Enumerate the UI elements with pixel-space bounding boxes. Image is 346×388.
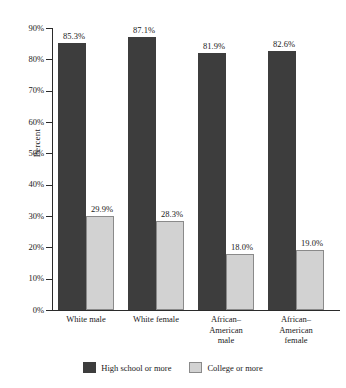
y-axis-tick-label: 30% <box>0 212 44 221</box>
chart-legend: High school or moreCollege or more <box>0 362 346 373</box>
x-axis-label-line: White female <box>116 314 196 325</box>
x-axis-label-line: American <box>186 325 266 336</box>
bar-value-label: 29.9% <box>85 205 119 214</box>
bar <box>156 221 184 310</box>
bar <box>296 250 324 310</box>
bar <box>58 43 86 310</box>
x-axis-label-line: African– <box>186 314 266 325</box>
y-axis-tick-label: 40% <box>0 180 44 189</box>
y-axis-tick <box>46 310 52 311</box>
bar <box>86 216 114 310</box>
x-axis-category-label: African–Americanmale <box>186 314 266 346</box>
bar-value-label: 87.1% <box>127 26 161 35</box>
x-axis-category-label: White male <box>46 314 126 325</box>
y-axis-tick-label: 0% <box>0 306 44 315</box>
plot-area: 85.3%29.9%87.1%28.3%81.9%18.0%82.6%19.0% <box>52 28 340 310</box>
bar <box>268 51 296 310</box>
bar <box>226 254 254 310</box>
y-axis-tick-label: 20% <box>0 243 44 252</box>
bar-value-label: 81.9% <box>197 42 231 51</box>
bar <box>198 53 226 310</box>
y-axis-tick-label: 80% <box>0 55 44 64</box>
x-axis-label-line: American <box>256 325 336 336</box>
x-axis-category-label: African–Americanfemale <box>256 314 336 346</box>
bar-value-label: 19.0% <box>295 239 329 248</box>
y-axis-tick-label: 10% <box>0 274 44 283</box>
bar-value-label: 82.6% <box>267 40 301 49</box>
x-axis-label-line: White male <box>46 314 126 325</box>
x-axis-category-label: White female <box>116 314 196 325</box>
legend-item: College or more <box>189 362 262 373</box>
y-axis-tick-label: 70% <box>0 86 44 95</box>
y-axis-tick-label: 90% <box>0 24 44 33</box>
legend-label: College or more <box>207 363 262 373</box>
legend-label: High school or more <box>101 363 171 373</box>
bar-chart: Percent 90%80%70%60%50%40%30%20%10%0% 85… <box>0 0 346 388</box>
bar-value-label: 85.3% <box>57 32 91 41</box>
x-axis-label-line: African– <box>256 314 336 325</box>
bar <box>128 37 156 310</box>
legend-swatch <box>83 362 96 373</box>
legend-item: High school or more <box>83 362 171 373</box>
x-axis-line <box>52 310 340 311</box>
x-axis-label-line: female <box>256 335 336 346</box>
bar-value-label: 28.3% <box>155 210 189 219</box>
x-axis-label-line: male <box>186 335 266 346</box>
y-axis-tick-label: 60% <box>0 118 44 127</box>
y-axis-tick-label: 50% <box>0 149 44 158</box>
bar-value-label: 18.0% <box>225 243 259 252</box>
legend-swatch <box>189 362 202 373</box>
